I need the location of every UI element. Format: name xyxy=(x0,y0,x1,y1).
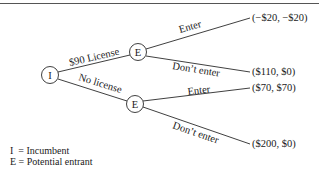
node-entrant-upper: E xyxy=(130,44,147,61)
node-entrant-lower: E xyxy=(127,96,144,113)
node-incumbent: I xyxy=(42,67,59,84)
legend: I = Incumbent E = Potential entrant xyxy=(10,145,93,167)
branch-label-no-license: No license xyxy=(77,71,123,95)
node-entrant-lower-label: E xyxy=(132,99,138,110)
legend-entrant: E = Potential entrant xyxy=(10,156,93,167)
branch-label-license: $90 License xyxy=(68,46,121,68)
payoff-license-dont: ($110, $0) xyxy=(252,66,296,78)
branch-label-upper-enter: Enter xyxy=(178,18,203,35)
branch-label-lower-enter: Enter xyxy=(187,83,211,97)
payoff-nolicense-dont: ($200, $0) xyxy=(252,138,296,150)
branch-label-upper-dont: Don’t enter xyxy=(172,60,222,78)
legend-incumbent: I = Incumbent xyxy=(10,145,93,156)
node-entrant-upper-label: E xyxy=(135,47,141,58)
payoff-license-enter: (−$20, −$20) xyxy=(252,12,308,24)
payoff-nolicense-enter: ($70, $70) xyxy=(252,82,296,94)
node-incumbent-label: I xyxy=(48,70,52,81)
branch-label-lower-dont: Don’t enter xyxy=(171,119,220,145)
